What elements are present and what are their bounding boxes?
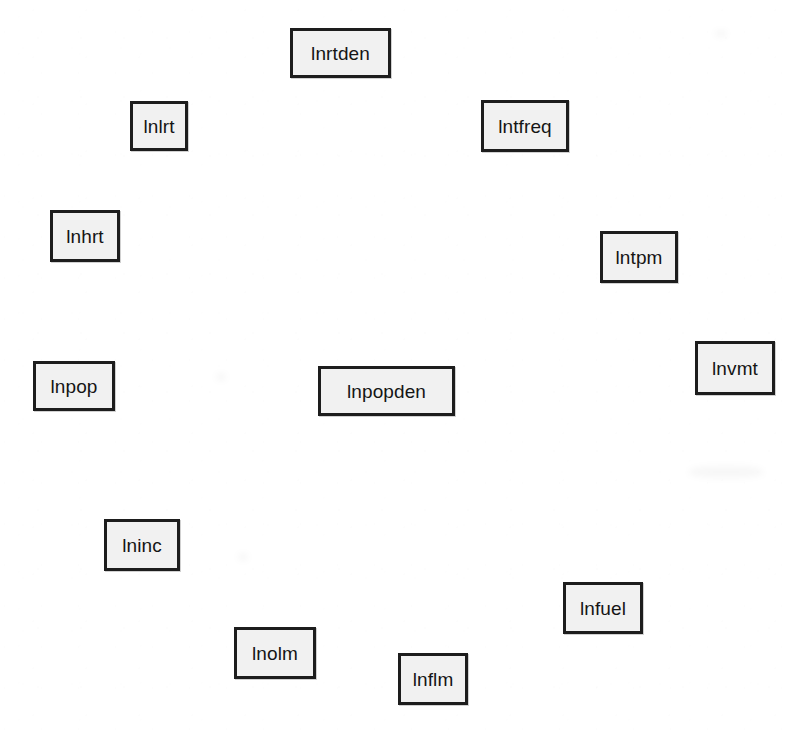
node-lnvmt[interactable]: lnvmt [695,341,775,395]
node-lnlrt[interactable]: lnlrt [130,101,188,151]
node-label: lnlrt [143,116,174,135]
scan-smudge [216,373,226,381]
node-lninc[interactable]: lninc [104,519,180,571]
node-label: lntpm [616,247,663,266]
scan-smudge [715,30,727,37]
node-lntfreq[interactable]: lntfreq [481,100,569,152]
node-lnpopden[interactable]: lnpopden [318,366,455,416]
node-label: lnflm [413,669,454,688]
node-lntpm[interactable]: lntpm [600,231,678,283]
node-lnrtden[interactable]: lnrtden [290,28,391,78]
node-label: lnhrt [66,226,103,245]
node-lnflm[interactable]: lnflm [398,653,468,705]
node-lnfuel[interactable]: lnfuel [563,582,643,634]
node-lnolm[interactable]: lnolm [234,627,316,679]
node-label: lnpop [51,376,98,395]
node-label: lnpopden [347,381,426,400]
node-label: lnvmt [712,358,758,377]
node-lnhrt[interactable]: lnhrt [50,210,120,262]
node-label: lntfreq [498,116,552,135]
node-label: lnolm [252,643,298,662]
diagram-canvas: lnrtden lnlrt lntfreq lnhrt lntpm lnvmt … [0,0,805,735]
scan-smudge [689,466,763,478]
node-label: lnrtden [311,43,370,62]
node-label: lninc [122,535,162,554]
scan-smudge [238,553,248,561]
node-lnpop[interactable]: lnpop [33,361,115,411]
node-label: lnfuel [580,598,626,617]
